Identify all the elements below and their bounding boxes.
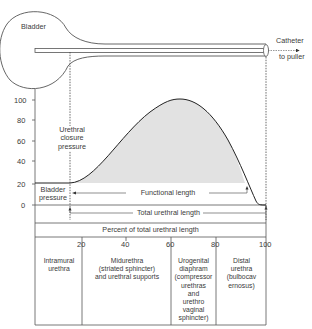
segment-distal-urethra: Distal urethra (bulbocav ernosus) xyxy=(217,257,266,290)
x-tick-40: 40 xyxy=(121,240,129,249)
x-tick-100: 100 xyxy=(259,240,272,249)
y-tick-20: 20 xyxy=(17,180,25,189)
bladder-label: Bladder xyxy=(21,23,46,31)
catheter-label: Catheter xyxy=(276,37,304,45)
segment-midurethra: Midurethra (striated sphincter) and uret… xyxy=(83,257,171,282)
puller-label: to puller xyxy=(279,53,305,61)
y-tick-100: 100 xyxy=(14,96,27,105)
segment-urogenital-diaphragm: Urogenital diaphram (compressor urethras… xyxy=(171,257,216,323)
y-tick-0: 0 xyxy=(21,201,25,210)
bladder-pressure-label: Bladder pressure xyxy=(38,186,68,203)
y-tick-60: 60 xyxy=(17,137,25,146)
y-tick-40: 40 xyxy=(17,157,25,166)
functional-length-label: Functional length xyxy=(127,189,209,197)
catheter-puller-ring xyxy=(264,45,269,57)
total-length-label: Total urethral length xyxy=(134,209,203,217)
x-tick-80: 80 xyxy=(211,240,219,249)
urethral-closure-pressure-label: Urethral closure pressure xyxy=(52,126,92,151)
percent-scale-title: Percent of total urethral length xyxy=(35,226,266,234)
y-tick-80: 80 xyxy=(17,116,25,125)
segment-intramural: Intramural urethra xyxy=(36,257,82,273)
x-tick-60: 60 xyxy=(166,240,174,249)
catheter xyxy=(35,49,268,53)
pressure-area xyxy=(70,99,245,183)
x-tick-20: 20 xyxy=(77,240,85,249)
